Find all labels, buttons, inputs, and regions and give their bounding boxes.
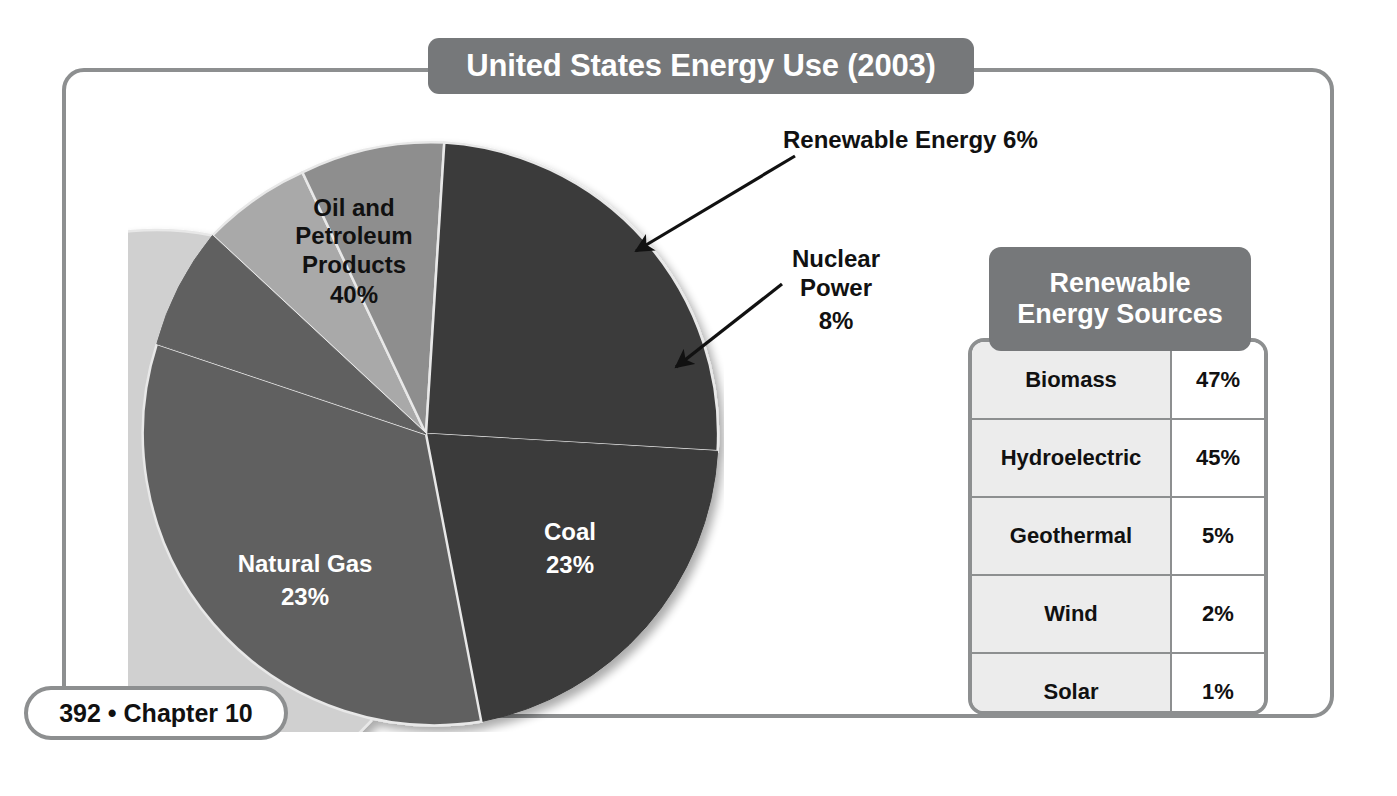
table-cell-share: 5% — [1171, 497, 1264, 575]
table-row: Geothermal 5% — [972, 497, 1264, 575]
table-cell-share: 1% — [1171, 653, 1264, 715]
figure-page: flective particles and the reactors core… — [0, 0, 1397, 796]
callout-nuclear-power-line-2: Power — [800, 274, 872, 301]
callout-renewable-energy: Renewable Energy 6% — [783, 126, 1038, 155]
renewable-energy-sources-title-plaque: Renewable Energy Sources — [989, 247, 1251, 351]
table-title-line-1: Renewable — [1049, 268, 1190, 299]
table-row: Hydroelectric 45% — [972, 419, 1264, 497]
table-cell-source: Biomass — [972, 342, 1171, 419]
page-number-text: 392 • Chapter 10 — [59, 699, 253, 728]
table-title-line-2: Energy Sources — [1017, 299, 1223, 330]
callout-renewable-energy-text: Renewable Energy 6% — [783, 126, 1038, 153]
page-number-tab: 392 • Chapter 10 — [24, 686, 288, 740]
renewable-energy-sources-table-panel: Biomass 47% Hydroelectric 45% Geothermal… — [968, 338, 1268, 715]
table-row: Wind 2% — [972, 575, 1264, 653]
callout-nuclear-power-line-1: Nuclear — [792, 245, 880, 272]
pie-slice-coal-upper — [426, 143, 718, 452]
figure-title-text: United States Energy Use (2003) — [466, 48, 935, 84]
figure-title-plaque: United States Energy Use (2003) — [428, 38, 974, 94]
callout-nuclear-power: Nuclear Power 8% — [770, 245, 902, 335]
table-row: Solar 1% — [972, 653, 1264, 715]
renewable-energy-sources-table: Biomass 47% Hydroelectric 45% Geothermal… — [972, 342, 1264, 715]
table-cell-source: Hydroelectric — [972, 419, 1171, 497]
table-cell-share: 47% — [1171, 342, 1264, 419]
pie-chart — [128, 136, 724, 732]
callout-nuclear-power-percent: 8% — [770, 307, 902, 336]
table-cell-source: Solar — [972, 653, 1171, 715]
table-cell-share: 2% — [1171, 575, 1264, 653]
table-cell-source: Geothermal — [972, 497, 1171, 575]
pie-chart-svg — [128, 136, 724, 732]
table-row: Biomass 47% — [972, 342, 1264, 419]
table-cell-source: Wind — [972, 575, 1171, 653]
table-cell-share: 45% — [1171, 419, 1264, 497]
